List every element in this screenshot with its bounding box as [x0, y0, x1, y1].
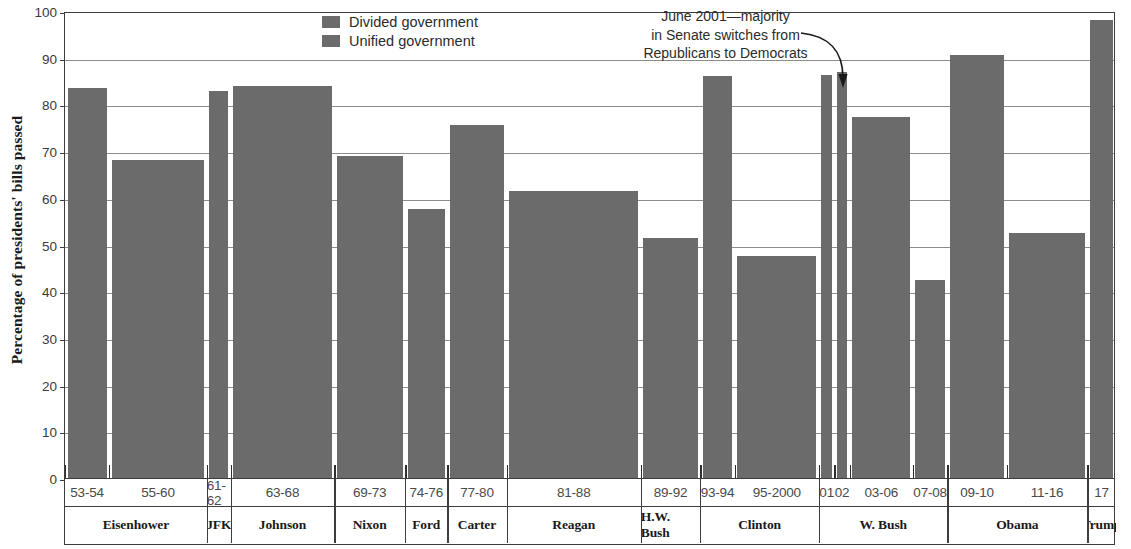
bar-95-2000: [737, 256, 816, 478]
x-year-label-81-88: 81-88: [507, 479, 641, 506]
bar-93-94: [703, 76, 732, 478]
president-divider: [334, 479, 335, 506]
x-year-label-95-2000: 95-2000: [735, 479, 819, 506]
x-president-label-reagan: Reagan: [507, 507, 641, 543]
bar-series: [65, 13, 1114, 478]
president-divider: [819, 479, 820, 506]
bar-77-80: [450, 125, 504, 478]
y-tick-100: 100: [34, 5, 57, 20]
legend-label: Divided government: [349, 14, 478, 30]
x-year-label-69-73: 69-73: [334, 479, 405, 506]
bar-01: [821, 75, 831, 478]
x-tickmark-09-10: [947, 465, 948, 478]
president-divider: [1087, 507, 1088, 543]
bar-03-06: [852, 117, 910, 478]
y-tick-30: 30: [42, 331, 57, 346]
y-axis-tick-labels: 1009080706050403020100: [34, 0, 62, 479]
president-divider: [641, 507, 642, 543]
legend-swatch-icon: [322, 16, 340, 28]
x-year-label-53-54: 53-54: [65, 479, 109, 506]
y-tick-10: 10: [42, 425, 57, 440]
x-year-label-77-80: 77-80: [447, 479, 506, 506]
x-president-label-w-bush: W. Bush: [819, 507, 947, 543]
x-year-label-11-16: 11-16: [1007, 479, 1087, 506]
president-divider: [447, 479, 448, 506]
president-divider: [405, 479, 406, 506]
y-tick-40: 40: [42, 285, 57, 300]
bar-69-73: [337, 156, 403, 478]
x-tickmark-81-88: [507, 465, 508, 478]
x-tickmark-07-08: [913, 465, 914, 478]
x-year-label-89-92: 89-92: [641, 479, 700, 506]
x-president-label-trump: Trump: [1087, 507, 1116, 543]
x-tickmark-63-68: [231, 465, 232, 478]
x-tickmark-69-73: [334, 465, 335, 478]
x-president-label-nixon: Nixon: [334, 507, 405, 543]
annotation-arrow-icon: [795, 30, 865, 92]
y-tick-0: 0: [49, 472, 57, 487]
president-divider: [231, 479, 232, 506]
y-tick-90: 90: [42, 51, 57, 66]
x-axis-label-table: 53-5455-6061-6263-6869-7374-7677-8081-88…: [64, 479, 1115, 545]
x-year-label-61-62: 61-62: [207, 479, 231, 506]
y-tick-80: 80: [42, 98, 57, 113]
president-divider: [447, 507, 448, 543]
x-tickmark-17: [1087, 465, 1088, 478]
x-axis-president-row: EisenhowerJFKJohnsonNixonFordCarterReaga…: [65, 507, 1114, 543]
bar-02: [837, 72, 847, 478]
president-divider: [207, 507, 208, 543]
president-divider: [207, 479, 208, 506]
x-tickmark-11-16: [1007, 465, 1008, 478]
x-president-label-johnson: Johnson: [231, 507, 334, 543]
x-year-label-03-06: 03-06: [850, 479, 913, 506]
bar-61-62: [209, 91, 228, 478]
x-president-label-ford: Ford: [405, 507, 447, 543]
president-divider: [641, 479, 642, 506]
president-divider: [700, 479, 701, 506]
bar-89-92: [643, 238, 697, 478]
x-year-label-93-94: 93-94: [700, 479, 734, 506]
x-tickmark-03-06: [850, 465, 851, 478]
x-president-label-jfk: JFK: [207, 507, 231, 543]
x-tickmark-01: [819, 465, 820, 478]
president-divider: [1087, 479, 1088, 506]
x-year-label-07-08: 07-08: [913, 479, 947, 506]
x-tickmark-53-54: [65, 465, 66, 478]
y-tick-60: 60: [42, 191, 57, 206]
legend-item-divided: Divided government: [322, 14, 478, 30]
president-divider: [507, 479, 508, 506]
x-tickmark-02: [834, 465, 835, 478]
legend-label: Unified government: [349, 33, 475, 49]
bar-17: [1090, 20, 1114, 478]
x-tickmark-93-94: [700, 465, 701, 478]
y-tick-50: 50: [42, 238, 57, 253]
president-divider: [507, 507, 508, 543]
x-year-label-55-60: 55-60: [109, 479, 207, 506]
y-axis-title-text: Percentage of presidents' bills passed: [8, 115, 26, 364]
x-tickmark-95-2000: [735, 465, 736, 478]
president-divider: [947, 507, 948, 543]
x-year-label-74-76: 74-76: [405, 479, 447, 506]
x-year-label-01: 01: [819, 479, 834, 506]
x-president-label-carter: Carter: [447, 507, 506, 543]
x-president-label-clinton: Clinton: [700, 507, 819, 543]
legend: Divided governmentUnified government: [322, 14, 478, 49]
x-tickmark-89-92: [641, 465, 642, 478]
x-tickmark-77-80: [447, 465, 448, 478]
president-divider: [700, 507, 701, 543]
president-divider: [947, 479, 948, 506]
president-divider: [334, 507, 335, 543]
x-president-label-eisenhower: Eisenhower: [65, 507, 207, 543]
x-axis-year-row: 53-5455-6061-6263-6869-7374-7677-8081-88…: [65, 479, 1114, 507]
president-divider: [231, 507, 232, 543]
bar-07-08: [915, 280, 944, 478]
bar-09-10: [950, 55, 1004, 478]
y-tick-70: 70: [42, 145, 57, 160]
y-axis-title: Percentage of presidents' bills passed: [0, 0, 34, 479]
bar-11-16: [1009, 233, 1084, 478]
x-president-label-h-w-bush: H.W. Bush: [641, 507, 700, 543]
x-tickmark-61-62: [207, 465, 208, 478]
x-president-label-obama: Obama: [947, 507, 1087, 543]
x-year-label-02: 02: [834, 479, 849, 506]
x-year-label-63-68: 63-68: [231, 479, 334, 506]
